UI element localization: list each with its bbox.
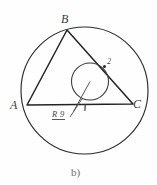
triangle-shape xyxy=(27,30,133,105)
geometry-figure: B A C 1 2 R 9 b) xyxy=(0,0,157,185)
vertex-label-c: C xyxy=(133,98,141,110)
vertex-label-a: A xyxy=(10,99,18,111)
figure-caption: b) xyxy=(71,166,80,178)
angle-2-point xyxy=(103,65,106,68)
radius-label: R 9 xyxy=(52,110,65,120)
vertex-label-b: B xyxy=(61,13,69,25)
angle-label-2: 2 xyxy=(107,58,111,66)
circumcircle-shape xyxy=(21,27,148,154)
geometry-canvas xyxy=(0,0,157,185)
radius-leader-line xyxy=(70,99,82,117)
angle-label-1: 1 xyxy=(83,105,87,113)
radius-segment xyxy=(74,82,91,112)
